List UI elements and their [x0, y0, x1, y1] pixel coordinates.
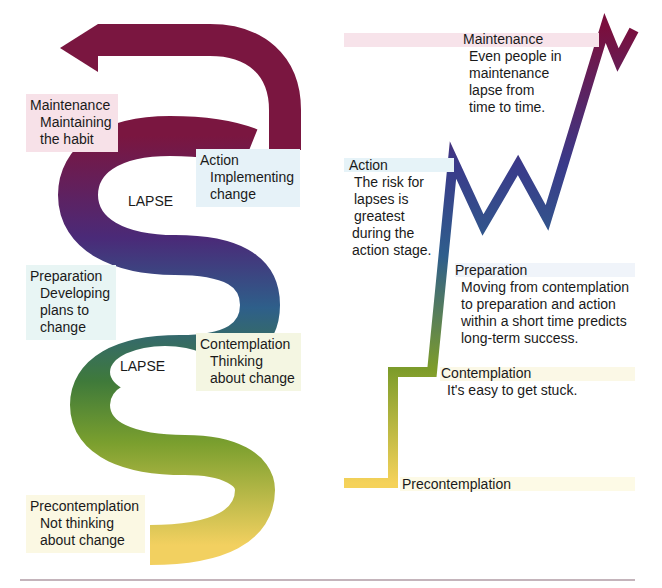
path-label-precontemplation: Precontemplation — [402, 476, 511, 493]
path-label-maintenance: Maintenance Even people in maintenance l… — [463, 31, 562, 116]
path-label-contemplation: Contemplation It's easy to get stuck. — [441, 365, 577, 399]
lapse-label-lower: LAPSE — [120, 358, 165, 374]
path-label-action: Action The risk for lapses is greatest d… — [349, 157, 431, 259]
lapse-label-upper: LAPSE — [128, 193, 173, 209]
spiral-label-contemplation: Contemplation Thinking about change — [196, 333, 301, 391]
spiral-label-action: Action Implementing change — [196, 149, 300, 207]
path-label-preparation: Preparation Moving from contemplation to… — [455, 262, 629, 347]
spiral-label-maintenance: Maintenance Maintaining the habit — [26, 94, 118, 152]
spiral-label-preparation: Preparation Developing plans to change — [26, 265, 116, 340]
spiral-label-precontemplation: Precontemplation Not thinking about chan… — [26, 495, 145, 553]
